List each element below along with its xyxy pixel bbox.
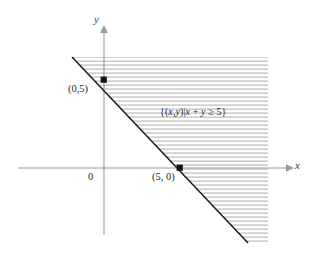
origin-label: 0 [88,172,93,183]
inequality-graph-figure: y x (0,5) (5, 0) 0 {(x,y)|x + y ≥ 5} [0,0,310,254]
set-notation-label: {(x,y)|x + y ≥ 5} [160,107,226,117]
y-axis-label: y [94,14,99,25]
y-axis-arrowhead [100,25,108,33]
point-label-x-intercept: (5, 0) [152,172,175,183]
point-label-y-intercept: (0,5) [68,84,88,95]
set-plus: + [190,106,201,117]
shaded-region-inequality [72,57,268,243]
point-marker-y-intercept [101,77,107,83]
x-axis-label: x [295,160,300,171]
point-marker-x-intercept [177,165,183,171]
shaded-region-group [72,57,268,243]
graph-canvas [0,0,310,254]
set-relation: ≥ 5} [206,106,227,117]
x-axis-arrowhead [286,164,294,172]
